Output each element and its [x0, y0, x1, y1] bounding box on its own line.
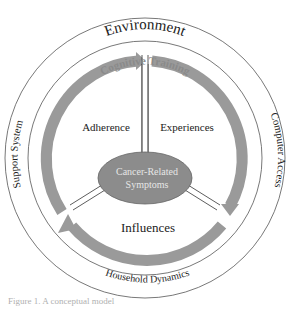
arrowhead-right [221, 204, 239, 216]
diagram-canvas: Environment Cognitive Training Support S… [0, 0, 290, 312]
label-household-dynamics: Household Dynamics [104, 267, 190, 285]
center-ellipse [98, 152, 192, 204]
sector-label-adherence: Adherence [82, 121, 130, 133]
conceptual-model-figure: Environment Cognitive Training Support S… [0, 0, 290, 312]
sector-label-experiences: Experiences [160, 121, 214, 133]
center-label-line2: Symptoms [126, 179, 169, 190]
center-label-line1: Cancer-Related [116, 166, 178, 177]
label-support-system: Support System [8, 119, 25, 189]
sector-label-influences: Influences [121, 220, 175, 235]
figure-caption: Figure 1. A conceptual model [8, 296, 114, 306]
label-environment: Environment [102, 16, 188, 39]
label-computer-access: Computer Access [269, 111, 288, 189]
